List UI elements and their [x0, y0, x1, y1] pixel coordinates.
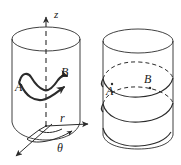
- figure-vector-graphics: [0, 0, 181, 165]
- helix-hidden-segments: [103, 62, 173, 104]
- right-cylinder: [103, 29, 173, 149]
- wavy-path-stroke: [20, 74, 67, 91]
- r-axis-line: [46, 124, 88, 126]
- cylindrical-coordinates-figure: z A B r θ A B: [0, 0, 181, 165]
- wavy-path-return-stroke: [21, 85, 64, 100]
- helix-front-turn-3: [103, 128, 171, 146]
- right-point-A-label: A: [106, 85, 113, 97]
- right-point-B-label: B: [144, 73, 151, 85]
- right-cylinder-bottom-arc: [103, 135, 173, 149]
- helix-front-turn-2: [103, 103, 173, 122]
- wavy-path-A-to-B: [19, 74, 67, 100]
- right-cylinder-top-ellipse: [103, 29, 173, 53]
- left-cylinder-top-ellipse: [12, 27, 80, 51]
- helix-front-turn-1: [103, 78, 173, 97]
- theta-sector-edge: [39, 126, 46, 130]
- r-axis-label: r: [60, 112, 65, 124]
- helix-front-segments: [103, 78, 173, 146]
- z-axis-label: z: [54, 9, 58, 20]
- helix-back-turn-2: [103, 87, 173, 104]
- theta-angle-label: θ: [57, 142, 63, 154]
- left-point-A-label: A: [15, 81, 22, 93]
- theta-inner-arc: [39, 129, 62, 133]
- left-point-B-label: B: [61, 66, 68, 78]
- right-point-B-marker: [149, 87, 151, 89]
- helix-back-turn-1: [103, 62, 173, 79]
